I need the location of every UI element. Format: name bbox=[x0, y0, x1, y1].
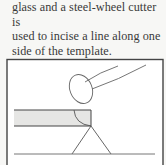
glass-cutting-illustration bbox=[0, 0, 166, 165]
glass-plate bbox=[14, 110, 91, 126]
